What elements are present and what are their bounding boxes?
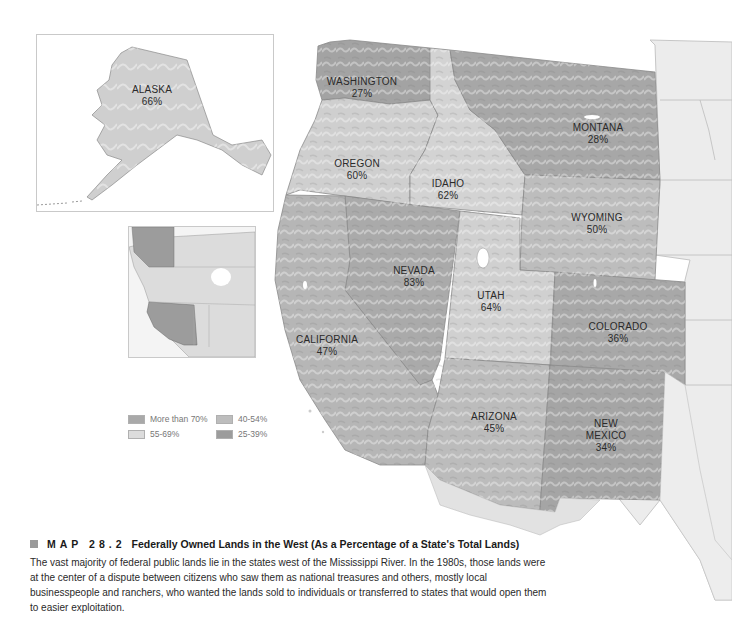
state-name: WASHINGTON [327, 76, 397, 88]
legend-item-55-69: 55-69% [128, 429, 179, 439]
alaska-shape [37, 35, 273, 211]
colorado-label: COLORADO 36% [589, 321, 648, 345]
great-salt-lake [477, 248, 489, 268]
state-percentage: 83% [393, 277, 435, 289]
state-percentage: 34% [586, 442, 627, 454]
new-mexico-label: NEW MEXICO 34% [586, 418, 627, 454]
legend-swatch [128, 430, 145, 439]
legend-swatch [216, 415, 233, 424]
state-name: NEVADA [393, 265, 435, 277]
caption-title: MAP 28.2 Federally Owned Lands in the We… [30, 538, 550, 550]
wyoming-label: WYOMING 50% [571, 212, 622, 236]
montana-label: MONTANA 28% [573, 122, 624, 146]
state-percentage: 60% [334, 170, 380, 182]
legend-swatch [216, 430, 233, 439]
legend-item-25-39: 25-39% [216, 429, 267, 439]
state-percentage: 27% [327, 88, 397, 100]
legend-label: 40-54% [238, 414, 267, 424]
map-caption: MAP 28.2 Federally Owned Lands in the We… [30, 538, 550, 615]
state-name: ARIZONA [471, 411, 517, 423]
oregon-label: OREGON 60% [334, 158, 380, 182]
legend-label: More than 70% [150, 414, 208, 424]
state-name-line2: MEXICO [586, 430, 627, 442]
alaska-label: ALASKA 66% [132, 84, 172, 108]
state-percentage: 64% [477, 302, 504, 314]
square-bullet-icon [30, 540, 38, 548]
state-percentage: 36% [589, 333, 648, 345]
state-name: OREGON [334, 158, 380, 170]
legend-label: 25-39% [238, 429, 267, 439]
state-name: IDAHO [432, 178, 465, 190]
state-name: CALIFORNIA [296, 334, 358, 346]
idaho-label: IDAHO 62% [432, 178, 465, 202]
north-america-map [129, 227, 255, 357]
state-percentage: 62% [432, 190, 465, 202]
state-name: MONTANA [573, 122, 624, 134]
state-percentage: 47% [296, 346, 358, 358]
alaska-inset [36, 34, 274, 212]
legend-swatch [128, 415, 145, 424]
arizona-label: ARIZONA 45% [471, 411, 517, 435]
state-percentage: 66% [132, 96, 172, 108]
nevada-label: NEVADA 83% [393, 265, 435, 289]
legend-item-more-than-70: More than 70% [128, 414, 208, 424]
california-label: CALIFORNIA 47% [296, 334, 358, 358]
map-number: MAP 28.2 [47, 538, 126, 550]
utah-label: UTAH 64% [477, 290, 504, 314]
state-percentage: 50% [571, 224, 622, 236]
legend-label: 55-69% [150, 429, 179, 439]
state-name-line1: NEW [586, 418, 627, 430]
legend-item-40-54: 40-54% [216, 414, 267, 424]
caption-body: The vast majority of federal public land… [30, 555, 550, 615]
north-america-locator-inset [128, 226, 256, 358]
map-title: Federally Owned Lands in the West (As a … [132, 538, 520, 550]
state-name: UTAH [477, 290, 504, 302]
washington-label: WASHINGTON 27% [327, 76, 397, 100]
state-name: WYOMING [571, 212, 622, 224]
state-name: ALASKA [132, 84, 172, 96]
state-percentage: 28% [573, 134, 624, 146]
state-name: COLORADO [589, 321, 648, 333]
state-percentage: 45% [471, 423, 517, 435]
